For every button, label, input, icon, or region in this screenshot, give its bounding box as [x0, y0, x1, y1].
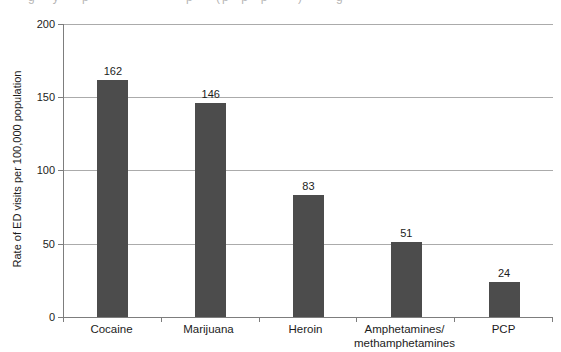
- bar-column: 162: [64, 24, 162, 317]
- x-tick-mark: [356, 318, 357, 322]
- y-tick-label-150: 150: [18, 90, 55, 104]
- x-category-label: PCP: [455, 322, 552, 351]
- x-tick-mark: [161, 318, 162, 322]
- plot-area: 162146835124: [63, 24, 553, 318]
- figure: g y pp (p p p) g Rate of ED visits per 1…: [0, 0, 561, 352]
- y-tick-label-100: 100: [18, 163, 55, 177]
- bar-value-label: 146: [202, 89, 220, 100]
- x-tick-mark: [454, 318, 455, 322]
- bar-value-label: 24: [498, 268, 510, 279]
- x-category-label: Cocaine: [63, 322, 160, 351]
- x-category-label: Marijuana: [160, 322, 257, 351]
- bar-value-label: 83: [302, 181, 314, 192]
- bar-value-label: 51: [400, 228, 412, 239]
- cropped-caption-remnant: g y pp (p p p) g: [0, 0, 561, 6]
- y-tick-label-50: 50: [18, 237, 55, 251]
- bar-amphetamines-: [391, 242, 422, 317]
- caption-remnant-fragment: p (p p p: [186, 0, 269, 4]
- bar-pcp: [489, 282, 520, 317]
- y-tick-label-200: 200: [18, 17, 55, 31]
- bar-column: 83: [260, 24, 358, 317]
- bar-heroin: [293, 195, 324, 317]
- x-category-label: Heroin: [257, 322, 354, 351]
- y-tick-mark-150: [58, 97, 63, 98]
- bar-column: 24: [455, 24, 553, 317]
- bar-marijuana: [195, 103, 226, 317]
- caption-remnant-fragment: g y p: [28, 0, 91, 4]
- x-category-label: Amphetamines/ methamphetamines: [354, 322, 455, 351]
- x-tick-mark: [259, 318, 260, 322]
- bar-column: 51: [357, 24, 455, 317]
- x-axis-category-labels: CocaineMarijuanaHeroinAmphetamines/ meth…: [63, 322, 552, 351]
- y-tick-label-0: 0: [18, 310, 55, 324]
- bar-column: 146: [162, 24, 260, 317]
- y-tick-mark-200: [58, 24, 63, 25]
- bar-cocaine: [97, 80, 128, 317]
- y-tick-mark-50: [58, 244, 63, 245]
- x-tick-mark: [63, 318, 64, 322]
- x-tick-mark: [552, 318, 553, 322]
- y-tick-mark-100: [58, 170, 63, 171]
- bar-value-label: 162: [104, 66, 122, 77]
- caption-remnant-fragment: ) g: [298, 0, 345, 4]
